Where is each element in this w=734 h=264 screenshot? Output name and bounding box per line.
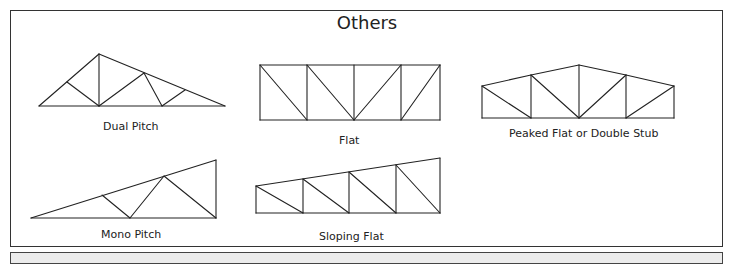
truss-dual-pitch <box>39 54 225 106</box>
truss-label: Peaked Flat or Double Stub <box>509 127 658 140</box>
truss-label: Flat <box>339 134 359 147</box>
truss-label: Sloping Flat <box>319 230 384 243</box>
truss-label: Dual Pitch <box>103 120 159 133</box>
truss-flat <box>260 65 440 120</box>
footer-panel <box>10 252 723 264</box>
truss-mono-pitch <box>31 160 216 218</box>
truss-sloping-flat <box>256 158 440 213</box>
truss-peaked-flat-or-double-stub <box>482 65 674 118</box>
truss-label: Mono Pitch <box>101 228 161 241</box>
